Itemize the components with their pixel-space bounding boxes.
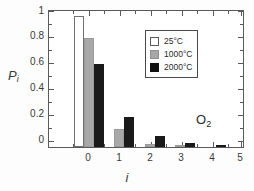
x-tick-label-0: 0 (85, 153, 91, 163)
bar-1000C-i2 (145, 144, 155, 147)
legend-label-25c: 25°C (164, 37, 183, 46)
y-tick-label-06: 0.6 (30, 57, 44, 67)
x-axis-title: i (0, 170, 254, 185)
bar-2000C-i2 (155, 136, 165, 147)
legend-label-1000c: 1000°C (164, 50, 192, 59)
y-axis-title-subscript: i (17, 74, 19, 84)
y-tick-label-08: 0.8 (30, 31, 44, 41)
bar-2000C-i3 (185, 143, 195, 147)
species-annotation: O2 (196, 112, 211, 129)
species-annotation-subscript: 2 (206, 119, 211, 129)
gray-square-swatch-icon (150, 50, 159, 59)
x-tick-label-3: 3 (178, 153, 184, 163)
bar-2000C-i0 (94, 64, 104, 147)
legend-entry-25c: 25°C (150, 35, 192, 47)
x-tick-label-5: 5 (237, 153, 243, 163)
open-square-swatch-icon (150, 37, 159, 46)
bar-1000C-i0 (84, 38, 94, 147)
y-axis-title: Pi (8, 68, 19, 84)
legend-entry-1000c: 1000°C (150, 48, 192, 60)
y-tick-label-0: 0 (38, 135, 44, 145)
legend-label-2000c: 2000°C (164, 63, 192, 72)
chart-figure: Pi 1 0.8 0.6 0.4 0.2 0 0 1 2 3 4 5 i (0, 0, 254, 191)
y-axis-title-main: P (8, 68, 17, 83)
legend: 25°C 1000°C 2000°C (145, 30, 198, 78)
y-tick-label-02: 0.2 (30, 109, 44, 119)
y-tick-label-1: 1 (38, 6, 44, 16)
y-tick-label-04: 0.4 (30, 83, 44, 93)
bar-1000C-i1 (114, 129, 124, 147)
bar-25C-i0 (74, 16, 84, 147)
bar-1000C-i3 (175, 145, 185, 147)
x-tick-label-4: 4 (209, 153, 215, 163)
black-square-swatch-icon (150, 63, 159, 72)
species-annotation-main: O (196, 112, 206, 127)
x-tick-label-1: 1 (116, 153, 122, 163)
bar-2000C-i4 (216, 145, 226, 147)
x-tick-label-2: 2 (147, 153, 153, 163)
legend-entry-2000c: 2000°C (150, 61, 192, 73)
bar-2000C-i1 (124, 117, 134, 147)
